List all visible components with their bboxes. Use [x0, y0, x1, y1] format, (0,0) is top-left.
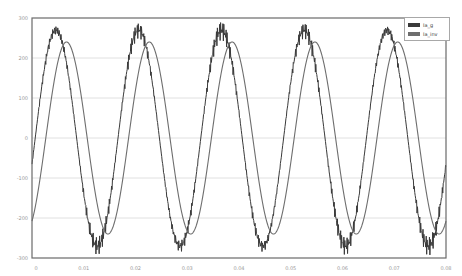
y-tick-label: -100	[17, 175, 28, 181]
x-tick-label: 0.02	[130, 265, 141, 271]
y-tick-label: 200	[18, 55, 28, 61]
y-tick-label: -200	[17, 215, 28, 221]
chart-area: 3002001000-100-200-30000.010.020.030.040…	[0, 0, 462, 276]
line-chart: 3002001000-100-200-30000.010.020.030.040…	[0, 0, 462, 276]
legend-swatch-ia-g	[408, 23, 420, 27]
x-tick-label: 0.01	[78, 265, 89, 271]
x-tick-label: 0	[34, 265, 37, 271]
x-tick-label: 0.06	[337, 265, 348, 271]
y-tick-label: 100	[18, 95, 28, 101]
legend-item-ia-g: Ia_g	[408, 21, 433, 29]
legend-label-ia-g: Ia_g	[423, 21, 433, 29]
x-tick-label: 0.03	[182, 265, 193, 271]
y-tick-label: 0	[25, 135, 28, 141]
y-tick-label: -300	[17, 255, 28, 261]
x-tick-label: 0.05	[285, 265, 296, 271]
x-tick-label: 0.04	[233, 265, 244, 271]
y-tick-label: 300	[18, 15, 28, 21]
series-line-ia-g	[32, 23, 446, 255]
legend: Ia_g Ia_inv	[404, 17, 450, 41]
legend-item-ia-inv: Ia_inv	[408, 30, 438, 38]
x-tick-label: 0.07	[389, 265, 400, 271]
legend-label-ia-inv: Ia_inv	[423, 30, 438, 38]
legend-swatch-ia-inv	[408, 32, 420, 36]
x-tick-label: 0.08	[440, 265, 451, 271]
